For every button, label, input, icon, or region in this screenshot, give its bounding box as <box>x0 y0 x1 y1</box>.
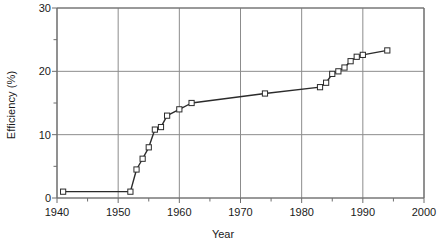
data-point-marker <box>360 52 365 57</box>
x-tick-label: 1960 <box>156 206 202 218</box>
data-point-marker <box>158 124 163 129</box>
data-point-marker <box>330 71 335 76</box>
data-point-marker <box>342 65 347 70</box>
y-axis-label: Efficiency (%) <box>5 71 17 139</box>
data-point-marker <box>134 167 139 172</box>
y-axis-label-wrapper: Efficiency (%) <box>0 0 22 210</box>
data-point-marker <box>262 91 267 96</box>
data-point-marker <box>385 48 390 53</box>
x-tick-label: 1940 <box>34 206 80 218</box>
y-tick-label: 20 <box>23 65 51 77</box>
data-point-marker <box>165 113 170 118</box>
data-point-marker <box>189 100 194 105</box>
data-point-marker <box>152 127 157 132</box>
x-tick-label: 2000 <box>401 206 446 218</box>
y-tick-label: 10 <box>23 129 51 141</box>
chart-figure: Efficiency (%) Year 0102030 194019501960… <box>0 0 446 251</box>
data-point-marker <box>336 69 341 74</box>
data-point-marker <box>317 85 322 90</box>
data-point-marker <box>61 189 66 194</box>
data-point-marker <box>324 80 329 85</box>
data-point-marker <box>348 59 353 64</box>
x-tick-label: 1950 <box>95 206 141 218</box>
data-point-marker <box>177 107 182 112</box>
data-point-marker <box>146 145 151 150</box>
x-axis-label: Year <box>0 228 446 240</box>
x-tick-label: 1980 <box>279 206 325 218</box>
x-tick-label: 1990 <box>340 206 386 218</box>
data-point-marker <box>140 156 145 161</box>
y-tick-label: 30 <box>23 2 51 14</box>
data-point-marker <box>128 189 133 194</box>
data-point-marker <box>354 54 359 59</box>
x-tick-label: 1970 <box>218 206 264 218</box>
y-tick-label: 0 <box>23 192 51 204</box>
